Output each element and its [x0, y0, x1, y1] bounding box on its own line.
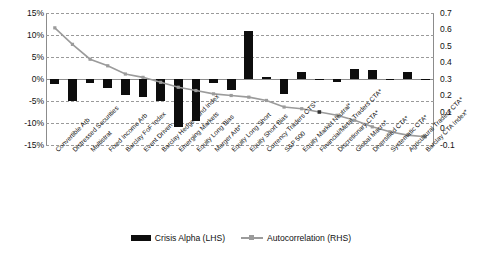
legend-item-autocorrelation: Autocorrelation (RHS)	[241, 233, 351, 243]
crisis-alpha-autocorrelation-chart: 15% 10% 5% 0% -5% -10% -15% 0.7 0.6 0.5 …	[0, 0, 482, 259]
legend-item-crisis-alpha: Crisis Alpha (LHS)	[131, 233, 225, 243]
legend-line-swatch-icon	[241, 234, 263, 242]
legend-label: Autocorrelation (RHS)	[267, 233, 351, 243]
legend-bar-swatch-icon	[131, 235, 151, 241]
chart-legend: Crisis Alpha (LHS) Autocorrelation (RHS)	[0, 233, 482, 243]
legend-label: Crisis Alpha (LHS)	[155, 233, 225, 243]
x-axis-labels: Convertible ArbDistressed SecuritiesMult…	[0, 0, 482, 259]
